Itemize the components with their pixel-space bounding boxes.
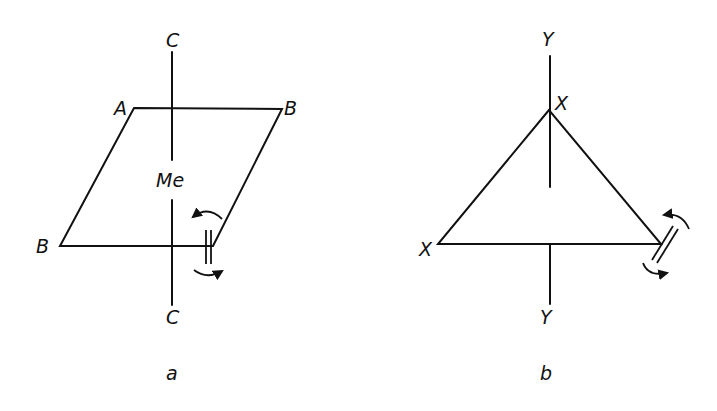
vertex-label-a: A [112,97,127,119]
figure-canvas: C C A B B Me a Y Y X X b [0,0,717,411]
vertex-label-b-bottom: B [36,235,49,257]
axis-label-top: Y [542,28,555,50]
axis-label-bottom: Y [540,306,553,328]
rotation-arrow-icon [643,263,667,274]
caption-a: a [166,362,178,384]
axis-label-top: C [166,29,180,51]
panel-a: C C A B B Me a [36,29,297,384]
rotation-arrow-icon [664,215,689,229]
rotation-arrow-icon [193,211,222,219]
caption-b: b [540,362,552,384]
center-label-me: Me [156,169,184,191]
vertex-label-b-top: B [284,97,297,119]
vertex-label-x-left: X [418,238,433,260]
vertex-label-x-top: X [554,92,569,114]
axis-label-bottom: C [166,306,180,328]
rotation-arrow-icon [194,270,222,275]
panel-b: Y Y X X b [418,28,689,384]
